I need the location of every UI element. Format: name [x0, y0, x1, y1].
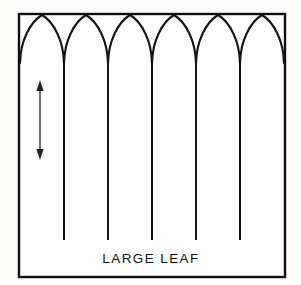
leaf-diagram-canvas: LARGE LEAF	[0, 0, 301, 285]
figure-caption: LARGE LEAF	[102, 251, 199, 266]
large-leaf-figure: LARGE LEAF	[0, 0, 301, 285]
